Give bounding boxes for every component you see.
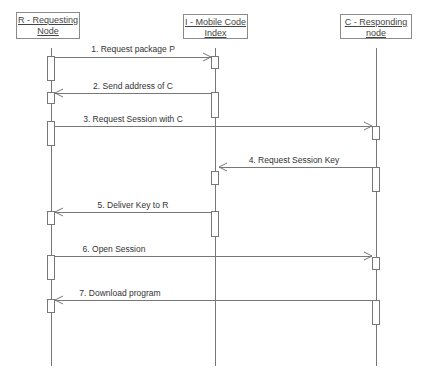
arrowhead-left-icon: [0, 0, 426, 375]
